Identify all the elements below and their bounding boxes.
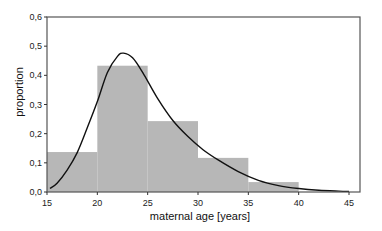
x-tick-label: 20: [92, 198, 102, 208]
y-axis-ticks: 0,00,10,20,30,40,50,6: [29, 12, 47, 197]
chart: 0,00,10,20,30,40,50,6 15202530354045 mat…: [0, 0, 382, 231]
y-axis-title: proportion: [13, 67, 25, 117]
y-tick-label: 0,3: [29, 100, 42, 110]
x-tick-label: 45: [344, 198, 354, 208]
y-tick-label: 0,0: [29, 187, 42, 197]
x-tick-label: 15: [42, 198, 52, 208]
x-axis-title: maternal age [years]: [150, 210, 250, 222]
histogram-bars: [47, 66, 299, 192]
y-tick-label: 0,4: [29, 70, 42, 80]
y-tick-label: 0,2: [29, 129, 42, 139]
histogram-bar: [148, 121, 198, 192]
y-tick-label: 0,6: [29, 12, 42, 22]
x-tick-label: 25: [143, 198, 153, 208]
x-tick-label: 40: [294, 198, 304, 208]
x-tick-label: 35: [243, 198, 253, 208]
y-tick-label: 0,1: [29, 158, 42, 168]
x-axis-ticks: 15202530354045: [42, 192, 354, 208]
x-tick-label: 30: [193, 198, 203, 208]
histogram-bar: [97, 66, 147, 192]
y-tick-label: 0,5: [29, 41, 42, 51]
